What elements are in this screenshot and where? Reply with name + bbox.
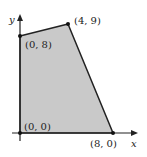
vertex-point: [66, 22, 70, 26]
feasible-region-diagram: y x (0, 0) (0, 8) (4, 9) (8, 0): [0, 0, 147, 157]
vertex-label-0-0: (0, 0): [24, 121, 51, 132]
vertex-label-0-8: (0, 8): [25, 39, 52, 50]
vertex-point: [18, 131, 22, 135]
x-axis-label: x: [131, 138, 137, 149]
y-axis-arrow-icon: [17, 14, 23, 21]
vertex-point: [18, 34, 22, 38]
vertex-label-4-9: (4, 9): [74, 15, 101, 26]
vertex-point: [111, 131, 115, 135]
y-axis-label: y: [8, 14, 15, 25]
vertex-label-8-0: (8, 0): [90, 138, 117, 149]
x-axis-arrow-icon: [131, 130, 138, 136]
